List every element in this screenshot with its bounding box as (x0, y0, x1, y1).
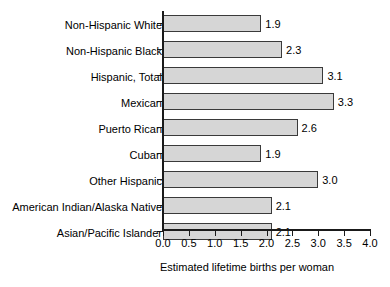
category-label: Hispanic, Total (91, 72, 162, 83)
bar-value-label: 3.0 (322, 175, 337, 186)
x-axis-tick (318, 231, 319, 236)
x-axis-tick (215, 231, 216, 236)
bar (163, 93, 334, 110)
x-axis-tick (267, 231, 268, 236)
x-axis-title: Estimated lifetime births per woman (0, 261, 390, 273)
bar (163, 145, 261, 162)
bar (163, 41, 282, 58)
bar (163, 67, 323, 84)
bar (163, 119, 298, 136)
bar (163, 171, 318, 188)
x-axis-tick-label: 4.0 (355, 238, 385, 249)
y-axis-line (162, 11, 164, 229)
x-axis-tick (292, 231, 293, 236)
x-axis-tick (344, 231, 345, 236)
bar-value-label: 2.1 (276, 201, 291, 212)
category-label: Non-Hispanic White (65, 20, 162, 31)
bar-value-label: 2.6 (302, 123, 317, 134)
category-label: Non-Hispanic Black (66, 46, 162, 57)
category-label: Mexican (121, 98, 162, 109)
bar-value-label: 1.9 (265, 149, 280, 160)
x-axis-tick (189, 231, 190, 236)
bar-value-label: 2.3 (286, 45, 301, 56)
bar-chart-figure: Non-Hispanic White Non-Hispanic Black Hi… (0, 0, 390, 287)
category-label: Puerto Rican (98, 124, 162, 135)
x-axis-tick (370, 231, 371, 236)
bar (163, 15, 261, 32)
x-axis-tick (241, 231, 242, 236)
category-label: Cuban (130, 150, 162, 161)
bar (163, 197, 272, 214)
category-label: Asian/Pacific Islander (57, 228, 162, 239)
bar-value-label: 3.3 (338, 97, 353, 108)
bar-value-label: 1.9 (265, 19, 280, 30)
bar-value-label: 3.1 (327, 71, 342, 82)
x-axis-tick (163, 231, 164, 236)
category-label: Other Hispanic (89, 176, 162, 187)
category-label: American Indian/Alaska Native (12, 202, 162, 213)
